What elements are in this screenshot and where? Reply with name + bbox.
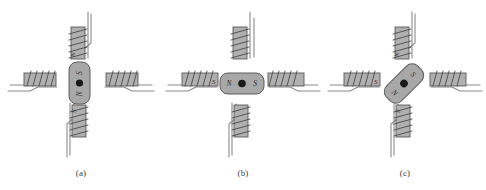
coil-top-pole-label: N [393, 52, 401, 58]
rotor-pole-top: S [75, 71, 84, 75]
coil-left [8, 71, 57, 91]
panel-a: N [0, 0, 162, 190]
rotor-pole-right: S [253, 79, 257, 88]
panel-a-diagram: N [0, 0, 162, 190]
panel-b-caption: (b) [162, 168, 324, 178]
rotor-shaft-dot [76, 79, 83, 86]
coil-left: S [328, 71, 380, 91]
figure-root: N [0, 0, 486, 190]
coil-left-pole-label: S [374, 78, 378, 86]
coil-right-lead-2 [269, 87, 320, 91]
coil-bottom: S [67, 103, 88, 157]
coil-top: N [393, 12, 415, 59]
coil-right-lead-2 [105, 87, 154, 91]
coil-top-pole-label: N [69, 52, 77, 58]
rotor-pole-left: N [225, 79, 232, 88]
coil-right-core [268, 73, 304, 86]
coil-left-lead-2 [328, 87, 379, 91]
coil-right [268, 71, 320, 91]
panel-a-caption: (a) [0, 168, 162, 178]
coil-top [231, 12, 254, 59]
rotor-magnet: S N [69, 62, 90, 104]
panel-c-diagram: N S [324, 0, 486, 190]
coil-bottom-pole-label: S [70, 109, 78, 113]
coil-bottom: S [391, 103, 412, 157]
coil-left-lead-2 [166, 87, 217, 91]
coil-bottom [229, 103, 250, 157]
coil-right-lead-2 [431, 87, 482, 91]
coil-top: N [69, 12, 91, 59]
coil-bottom-pole-label: S [394, 109, 402, 113]
coil-left: S [166, 71, 218, 91]
panel-b: S [162, 0, 324, 190]
rotor-magnet: N S [220, 73, 264, 94]
coil-left-pole-label: S [212, 78, 216, 86]
rotor-pole-bottom: N [75, 91, 84, 98]
panel-c: N S [324, 0, 486, 190]
coil-right [430, 71, 482, 91]
panel-b-diagram: S [162, 0, 324, 190]
rotor-magnet: N S [381, 61, 427, 107]
panel-c-caption: (c) [324, 168, 486, 178]
rotor-shaft-dot [238, 80, 246, 88]
coil-right [105, 71, 154, 91]
coil-left-lead-2 [8, 87, 57, 91]
